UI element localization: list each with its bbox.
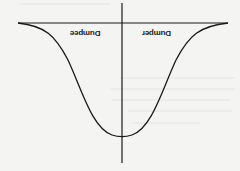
label-dumpee: Dumpee (70, 29, 100, 38)
label-dumper: Dumper (142, 29, 171, 38)
bell-curve-diagram (0, 0, 240, 171)
inverted-bell-curve (18, 23, 228, 137)
